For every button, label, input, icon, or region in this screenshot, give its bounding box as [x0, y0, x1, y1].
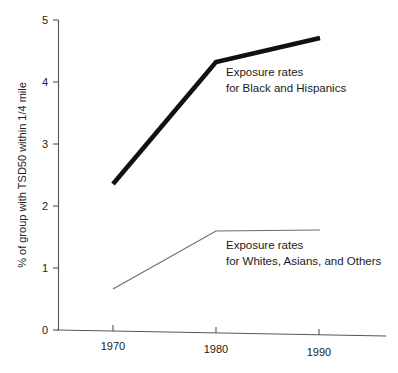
y-tick-label-1: 1 [42, 262, 48, 274]
y-tick-label-3: 3 [42, 138, 48, 150]
line-chart-canvas: 5 4 3 2 1 0 1970 1980 1990 % of group wi… [0, 0, 398, 373]
y-axis-title: % of group with TSD50 within 1/4 mile [16, 82, 28, 268]
x-axis-line [57, 330, 386, 336]
annotation-whites-asians-others-line1: Exposure rates [226, 239, 304, 251]
y-tick-label-0: 0 [42, 324, 48, 336]
annotation-black-hispanics-line1: Exposure rates [226, 66, 304, 78]
x-tick-label-1990: 1990 [307, 346, 331, 358]
annotation-black-hispanics-line2: for Black and Hispanics [226, 82, 346, 94]
y-tick-label-4: 4 [42, 76, 48, 88]
chart-figure: 5 4 3 2 1 0 1970 1980 1990 % of group wi… [0, 0, 398, 373]
x-tick-label-1970: 1970 [101, 340, 125, 352]
y-tick-label-5: 5 [42, 14, 48, 26]
annotation-whites-asians-others-line2: for Whites, Asians, and Others [226, 255, 382, 267]
x-tick-label-1980: 1980 [204, 343, 228, 355]
y-tick-label-2: 2 [42, 200, 48, 212]
series-line-black-and-hispanics [113, 38, 320, 184]
